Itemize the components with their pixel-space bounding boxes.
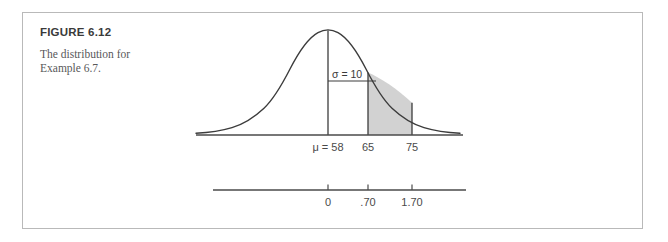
x-axis-tick-label-mean: μ = 58 [312, 141, 343, 153]
z-axis-tick-label-170: 1.70 [401, 196, 422, 208]
figure-root: FIGURE 6.12 The distribution for Example… [0, 0, 668, 242]
figure-caption-text: The distribution for Example 6.7. [40, 47, 190, 75]
caption-block: FIGURE 6.12 The distribution for Example… [40, 26, 190, 75]
sigma-annotation-label: σ = 10 [332, 68, 362, 80]
normal-distribution-plot: σ = 10 μ = 58 65 75 0 .70 1.70 [180, 14, 480, 224]
figure-caption-line-1: The distribution for [40, 48, 130, 60]
z-axis-tick-label-0: 0 [325, 196, 331, 208]
figure-caption-line-2: Example 6.7. [40, 62, 101, 74]
shaded-region-under-curve [368, 73, 412, 135]
plot-svg: σ = 10 μ = 58 65 75 0 .70 1.70 [180, 14, 480, 224]
z-axis-tick-label-070: .70 [360, 196, 375, 208]
x-axis-tick-label-75: 75 [406, 141, 418, 153]
figure-number-label: FIGURE 6.12 [40, 26, 190, 38]
x-axis-tick-label-65: 65 [362, 141, 374, 153]
